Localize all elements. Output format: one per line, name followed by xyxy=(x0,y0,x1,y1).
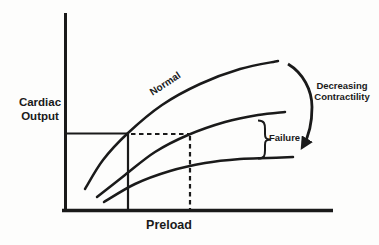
x-axis-label: Preload xyxy=(129,218,209,232)
starling-curve-figure: Cardiac Output Preload Normal Failure De… xyxy=(0,0,379,245)
y-axis-label-line1: Cardiac xyxy=(12,96,68,110)
y-axis-label: Cardiac Output xyxy=(12,96,68,123)
bottom-failure-curve xyxy=(104,157,293,202)
decreasing-contractility-label-line2: Contractility xyxy=(305,91,379,102)
y-axis-label-line2: Output xyxy=(12,110,68,124)
failure-label: Failure xyxy=(269,132,300,143)
normal-curve xyxy=(85,61,278,189)
decreasing-contractility-label: Decreasing Contractility xyxy=(305,80,379,102)
decreasing-contractility-label-line1: Decreasing xyxy=(305,80,379,91)
